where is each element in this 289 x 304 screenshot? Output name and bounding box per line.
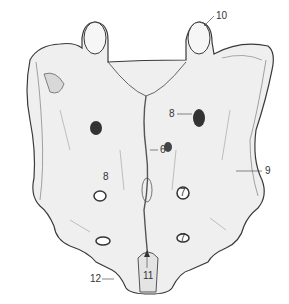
label-12: 12	[90, 274, 101, 284]
foramen-right-1	[193, 109, 205, 127]
left-articular-process	[84, 22, 106, 54]
sacrum-illustration	[0, 0, 289, 304]
label-10: 10	[216, 11, 227, 21]
label-8-left: 8	[103, 172, 109, 182]
label-8-right: 8	[169, 109, 175, 119]
foramen-left-3	[96, 237, 110, 245]
label-11: 11	[143, 271, 153, 281]
foramen-left-2	[94, 191, 106, 201]
label-9: 9	[265, 166, 271, 176]
label-6: 6	[160, 145, 166, 155]
right-articular-process	[188, 22, 210, 54]
label-7-lower: 7	[180, 233, 186, 243]
foramen-left-1	[90, 121, 102, 135]
label-7-upper: 7	[180, 188, 186, 198]
